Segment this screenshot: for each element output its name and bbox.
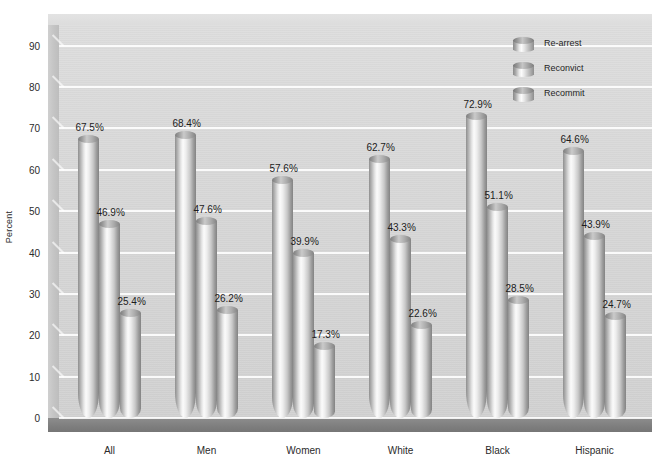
bar-value-label: 57.6% [269,163,297,174]
bar-value-label: 64.6% [560,134,588,145]
y-tick-label: 0 [8,413,40,424]
bar-value-label: 24.7% [602,299,630,310]
bar[interactable]: 24.7% [605,316,626,418]
bar-value-label: 46.9% [96,207,124,218]
bar-top-ellipse [487,203,508,211]
bar-value-label: 17.3% [311,329,339,340]
legend-label: Re-arrest [544,38,582,48]
bar[interactable]: 43.9% [584,236,605,418]
bar[interactable]: 43.3% [390,239,411,418]
bar-value-label: 43.9% [581,219,609,230]
legend-item[interactable]: Recommit [513,84,643,109]
bar-body [272,180,293,418]
bar[interactable]: 26.2% [217,310,238,418]
chart-legend: Re-arrestReconvictRecommit [513,34,643,109]
bar-value-label: 67.5% [75,122,103,133]
bar-top-ellipse [411,321,432,329]
bar-top-ellipse [217,306,238,314]
bar-body [175,135,196,418]
x-tick-label: Black [485,445,509,456]
recidivism-bar-chart: Percent 0102030405060708090 67.5%46.9%25… [0,0,662,469]
x-tick-label: Men [197,445,216,456]
bar[interactable]: 51.1% [487,207,508,418]
y-tick-label: 30 [8,288,40,299]
bar[interactable]: 22.6% [411,325,432,418]
bar[interactable]: 17.3% [314,346,335,418]
bar-value-label: 62.7% [366,142,394,153]
legend-cylinder-icon [513,87,534,102]
bar-top-ellipse [605,312,626,320]
bar[interactable]: 62.7% [369,159,390,418]
y-tick-label: 80 [8,82,40,93]
bar-value-label: 47.6% [193,204,221,215]
x-tick-label: Hispanic [575,445,613,456]
bar-body [563,151,584,418]
y-tick-label: 40 [8,247,40,258]
bar-top-ellipse [99,220,120,228]
bar[interactable]: 68.4% [175,135,196,418]
bar[interactable]: 72.9% [466,116,487,418]
bar-top-ellipse [293,249,314,257]
bar-body [584,236,605,418]
bar-top-ellipse [272,176,293,184]
bar-body [314,346,335,418]
bar-body [217,310,238,418]
bar-body [487,207,508,418]
y-tick-label: 10 [8,371,40,382]
bar-body [508,300,529,418]
y-tick-label: 70 [8,123,40,134]
bar-body [466,116,487,418]
bar-top-ellipse [369,155,390,163]
legend-item[interactable]: Reconvict [513,59,643,84]
bar-value-label: 51.1% [484,190,512,201]
legend-cylinder-icon [513,37,534,52]
bar-top-ellipse [120,309,141,317]
bar-value-label: 68.4% [172,118,200,129]
bar[interactable]: 46.9% [99,224,120,418]
bar-top-ellipse [175,131,196,139]
bar-body [196,221,217,418]
bar[interactable]: 28.5% [508,300,529,418]
bar-top-ellipse [390,235,411,243]
legend-cylinder-icon [513,62,534,77]
bar[interactable]: 67.5% [78,139,99,418]
bar-value-label: 25.4% [117,296,145,307]
bar-body [390,239,411,418]
bar-value-label: 43.3% [387,222,415,233]
bar-top-ellipse [78,135,99,143]
x-tick-label: All [104,445,115,456]
y-tick-label: 60 [8,164,40,175]
bar-value-label: 39.9% [290,236,318,247]
bar-value-label: 26.2% [214,293,242,304]
y-tick-label: 90 [8,40,40,51]
x-tick-label: Women [286,445,320,456]
bar-body [605,316,626,418]
bar-value-label: 72.9% [463,99,491,110]
y-tick-label: 20 [8,330,40,341]
bar-body [78,139,99,418]
legend-item[interactable]: Re-arrest [513,34,643,59]
bar-top-ellipse [563,147,584,155]
y-tick-label: 50 [8,206,40,217]
bar[interactable]: 64.6% [563,151,584,418]
bar-body [369,159,390,418]
legend-label: Reconvict [544,63,584,73]
legend-label: Recommit [544,88,585,98]
bar-body [120,313,141,418]
bar-body [411,325,432,418]
bar-value-label: 22.6% [408,308,436,319]
bar-body [99,224,120,418]
bar[interactable]: 57.6% [272,180,293,418]
bar-value-label: 28.5% [505,283,533,294]
x-tick-label: White [388,445,414,456]
bar[interactable]: 25.4% [120,313,141,418]
bar[interactable]: 47.6% [196,221,217,418]
